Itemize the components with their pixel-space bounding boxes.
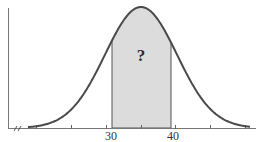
tick-label-40: 40 bbox=[167, 129, 179, 142]
normal-curve-chart: 30 40 ? bbox=[0, 0, 259, 142]
tick-label-30: 30 bbox=[105, 129, 117, 142]
unknown-probability-label: ? bbox=[137, 46, 146, 65]
